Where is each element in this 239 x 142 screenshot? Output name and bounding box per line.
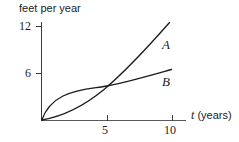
x-axis-unit: (years) — [194, 109, 231, 121]
x-tick-label-10: 10 — [164, 124, 176, 136]
curve-label-b: B — [162, 75, 170, 88]
y-tick-label-6: 6 — [25, 67, 31, 79]
x-tick-label-5: 5 — [102, 124, 108, 136]
x-axis-title: t (years) — [191, 110, 232, 121]
chart-figure: feet per year 12 6 5 10 t (years) A B — [0, 0, 239, 142]
y-axis-title: feet per year — [19, 3, 81, 14]
curve-label-a: A — [162, 38, 170, 51]
y-tick-label-12: 12 — [19, 20, 31, 32]
